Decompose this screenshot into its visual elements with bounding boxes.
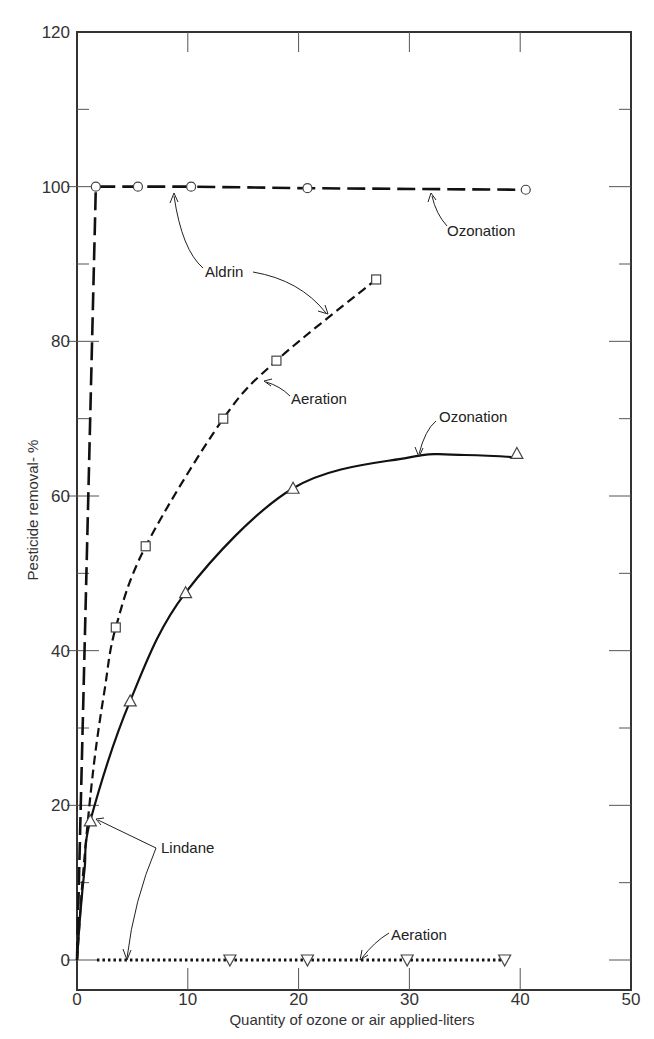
x-tick-label: 20: [289, 990, 308, 1009]
data-point-marker: [511, 447, 523, 458]
data-point-marker: [133, 182, 142, 191]
y-axis-label: Pesticide removal- %: [24, 440, 41, 581]
data-point-marker: [219, 414, 228, 423]
x-axis-label: Quantity of ozone or air applied-liters: [229, 1011, 474, 1028]
arrow-aldrin-to-aeration: [253, 272, 326, 313]
data-point-marker: [272, 356, 281, 365]
data-point-marker: [187, 182, 196, 191]
chart: 01020304050020406080100120 Quantity of o…: [0, 0, 654, 1039]
arrow-aldrin-ozonation: [432, 196, 447, 226]
annotation-aldrin: Aldrin: [205, 263, 243, 280]
x-tick-label: 10: [178, 990, 197, 1009]
data-point-marker: [521, 185, 530, 194]
annotation-lindane: Lindane: [161, 839, 214, 856]
y-tick-label: 60: [51, 487, 70, 506]
y-tick-label: 20: [51, 796, 70, 815]
annotation-aldrin-aeration: Aeration: [291, 390, 347, 407]
arrow-lindane-ozonation: [419, 421, 436, 454]
x-tick-label: 0: [72, 990, 81, 1009]
arrow-lindane-to-ozonation: [98, 820, 156, 848]
y-tick-label: 0: [61, 951, 70, 970]
arrow-aldrin-aeration: [266, 382, 290, 396]
series-line-aldrin-ozonation: [77, 187, 526, 960]
data-point-marker: [303, 184, 312, 193]
y-tick-label: 120: [42, 23, 70, 42]
data-point-marker: [84, 815, 96, 826]
y-tick-label: 100: [42, 178, 70, 197]
axis-tick-labels: 01020304050020406080100120: [42, 23, 641, 1009]
data-point-marker: [124, 695, 136, 706]
annotation-lindane-ozonation: Ozonation: [439, 408, 507, 425]
y-tick-label: 80: [51, 332, 70, 351]
annotation-arrows: [96, 193, 447, 960]
arrow-lindane-to-aeration: [127, 848, 156, 958]
data-point-marker: [287, 482, 299, 493]
data-point-marker: [141, 542, 150, 551]
series-line-aldrin-aeration: [77, 279, 376, 960]
data-point-marker: [111, 623, 120, 632]
arrow-aldrin-to-ozonation: [174, 196, 203, 268]
x-tick-label: 30: [400, 990, 419, 1009]
x-tick-label: 50: [622, 990, 641, 1009]
chart-canvas: 01020304050020406080100120 Quantity of o…: [0, 0, 654, 1039]
x-tick-label: 40: [511, 990, 530, 1009]
arrow-lindane-aeration: [362, 933, 389, 958]
y-tick-label: 40: [51, 642, 70, 661]
series-layer: [77, 182, 530, 966]
annotation-aldrin-ozonation: Ozonation: [447, 222, 515, 239]
annotation-lindane-aeration: Aeration: [391, 926, 447, 943]
data-point-marker: [91, 182, 100, 191]
data-point-marker: [372, 275, 381, 284]
